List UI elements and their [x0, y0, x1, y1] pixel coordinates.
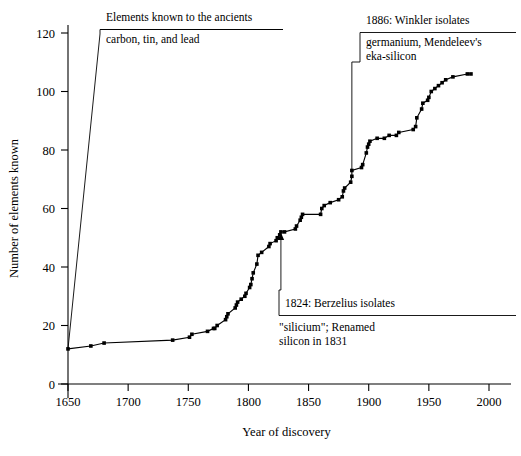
y-tick-label-60: 60: [43, 202, 56, 216]
data-point-marker: [190, 332, 194, 336]
data-point-marker: [368, 139, 372, 143]
data-point-marker: [420, 107, 424, 111]
data-point-marker: [244, 292, 248, 296]
x-tick-label-1800: 1800: [236, 395, 261, 409]
annotation-berzelius-line2: "silicium"; Renamed: [279, 321, 375, 333]
data-point-marker: [215, 324, 219, 328]
annotation-berzelius-line3: silicon in 1831: [279, 335, 348, 347]
y-tick-label-80: 80: [43, 144, 56, 158]
annotation-winkler-line2: germanium, Mendeleev's: [366, 36, 482, 49]
y-tick-label-20: 20: [43, 319, 56, 333]
y-axis-ticks: [61, 33, 68, 384]
annotation-ancients-line1: Elements known to the ancients: [106, 11, 253, 23]
data-point-marker: [102, 341, 106, 345]
data-point-marker: [361, 163, 365, 167]
data-point-marker: [337, 198, 341, 202]
annotation-winkler-line1: 1886: Winkler isolates: [366, 14, 470, 26]
x-tick-label-1900: 1900: [356, 395, 381, 409]
data-point-marker: [387, 134, 391, 138]
data-point-marker: [349, 180, 353, 184]
annotation-berzelius-line1: 1824: Berzelius isolates: [285, 297, 395, 309]
data-point-marker: [397, 131, 401, 135]
data-point-marker: [226, 312, 230, 316]
data-point-marker: [469, 72, 473, 76]
x-axis-tick-labels: 16501700175018001850190019502000: [56, 395, 502, 409]
annotation-winkler-line3: eka-silicon: [366, 50, 417, 62]
data-point-marker: [236, 300, 240, 304]
data-point-marker: [415, 116, 419, 120]
data-point-marker: [319, 213, 323, 217]
data-point-marker: [239, 297, 243, 301]
data-point-marker: [343, 186, 347, 190]
data-point-marker: [249, 283, 253, 287]
data-point-marker: [414, 125, 418, 129]
data-point-marker: [251, 271, 255, 275]
data-point-marker: [255, 262, 259, 266]
data-point-marker: [437, 84, 441, 88]
series-line-elements-known: [68, 74, 471, 349]
x-tick-label-2000: 2000: [477, 395, 502, 409]
annotation-ancients-line2: carbon, tin, and lead: [106, 33, 200, 46]
data-point-marker: [295, 224, 299, 228]
data-point-marker: [433, 87, 437, 91]
data-point-marker: [171, 338, 175, 342]
data-point-marker: [383, 137, 387, 141]
data-point-marker: [350, 175, 354, 179]
data-point-marker: [429, 90, 433, 94]
element-discovery-chart: 020406080100120 165017001750180018501900…: [0, 0, 521, 456]
data-point-marker: [444, 78, 448, 82]
annotation-winkler-leader-line: [352, 33, 360, 171]
x-tick-label-1850: 1850: [296, 395, 321, 409]
annotation-winkler: 1886: Winkler isolates germanium, Mendel…: [352, 14, 516, 170]
data-point-marker: [283, 230, 287, 234]
data-point-marker: [451, 75, 455, 79]
x-tick-label-1950: 1950: [416, 395, 441, 409]
chart-canvas: 020406080100120 165017001750180018501900…: [0, 0, 521, 456]
y-axis-tick-labels: 020406080100120: [36, 27, 55, 392]
y-tick-label-40: 40: [43, 261, 56, 275]
data-series-group: [66, 72, 473, 351]
data-point-marker: [328, 201, 332, 205]
data-point-marker: [322, 204, 326, 208]
data-point-marker: [260, 251, 264, 255]
y-axis-title: Number of elements known: [7, 138, 21, 278]
x-tick-label-1650: 1650: [56, 395, 81, 409]
data-point-marker: [206, 330, 210, 334]
data-point-marker: [89, 344, 93, 348]
annotation-ancients-leader-line: [68, 30, 283, 349]
data-point-marker: [340, 195, 344, 199]
annotation-berzelius-leader-line: [279, 238, 281, 316]
annotation-berzelius: 1824: Berzelius isolates "silicium"; Ren…: [278, 232, 516, 347]
data-point-marker: [268, 242, 272, 246]
data-point-marker: [256, 254, 260, 258]
x-axis-title: Year of discovery: [242, 425, 331, 439]
data-point-marker: [301, 213, 305, 217]
data-point-marker: [427, 96, 431, 100]
x-tick-label-1700: 1700: [116, 395, 141, 409]
data-point-marker: [421, 101, 425, 105]
y-tick-label-0: 0: [49, 378, 55, 392]
data-point-marker: [440, 81, 444, 85]
y-tick-label-100: 100: [36, 85, 55, 99]
series-markers: [66, 72, 473, 351]
data-point-marker: [375, 137, 379, 141]
data-point-marker: [250, 277, 254, 281]
data-point-marker: [365, 151, 369, 155]
annotation-ancients: Elements known to the ancients carbon, t…: [68, 11, 283, 349]
data-point-marker: [466, 72, 470, 76]
x-axis-ticks: [68, 384, 489, 391]
y-tick-label-120: 120: [36, 27, 55, 41]
x-tick-label-1750: 1750: [176, 395, 201, 409]
